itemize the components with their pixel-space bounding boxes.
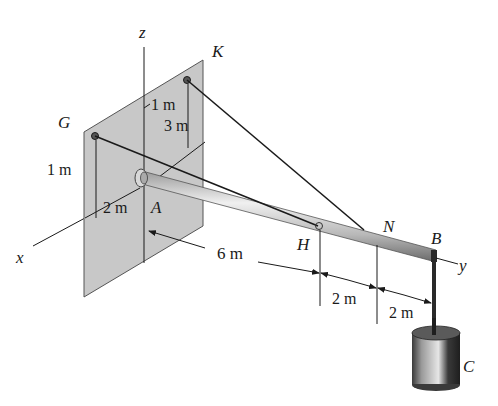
- collar-a: [135, 169, 148, 187]
- label-dim-h-to-n: 2 m: [332, 290, 357, 307]
- label-y-axis: y: [457, 256, 467, 275]
- label-z-axis: z: [138, 23, 146, 42]
- label-point-a: A: [150, 198, 162, 217]
- label-point-g: G: [58, 113, 70, 132]
- dimension-2m-nb: [378, 288, 431, 303]
- x-axis: [33, 218, 85, 246]
- label-point-b: B: [431, 229, 442, 248]
- label-dim-n-to-b: 2 m: [389, 304, 414, 321]
- label-point-c: C: [463, 357, 475, 376]
- label-x-axis: x: [15, 248, 24, 267]
- label-point-h: H: [296, 235, 311, 254]
- weight-c: [412, 318, 460, 391]
- label-dim-a-to-h: 6 m: [217, 244, 243, 263]
- y-axis: [436, 258, 458, 264]
- statics-diagram: z x y K G A H N B C 1 m 3 m 1 m 2 m 6 m …: [0, 0, 498, 406]
- dimension-2m-hn: [321, 273, 376, 288]
- label-dim-g-horizontal: 2 m: [103, 199, 128, 216]
- label-dim-g-vertical: 1 m: [47, 161, 72, 178]
- label-dim-k-vertical: 3 m: [164, 117, 189, 134]
- label-point-k: K: [211, 42, 225, 61]
- label-point-n: N: [382, 217, 396, 236]
- label-dim-k-horizontal: 1 m: [151, 96, 176, 113]
